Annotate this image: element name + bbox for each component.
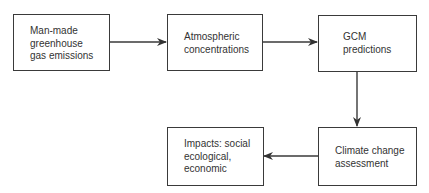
node-concentrations-label: Atmospheric concentrations — [184, 31, 249, 56]
node-emissions-label: Man-made greenhouse gas emissions — [30, 25, 93, 63]
node-assessment-label: Climate change assessment — [335, 145, 404, 170]
node-impacts-label: Impacts: social ecological, economic — [184, 138, 250, 176]
node-gcm-label: GCM predictions — [343, 31, 391, 56]
